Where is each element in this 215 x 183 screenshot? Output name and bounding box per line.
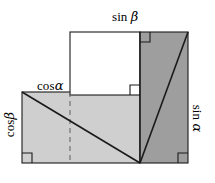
label-cos-beta-text: cos [2, 120, 17, 138]
label-cos-alpha: cosα [37, 79, 64, 92]
geometry-canvas [0, 0, 215, 183]
label-sin-alpha-text: sin [190, 105, 205, 124]
label-sin-alpha-symbol: α [190, 123, 205, 132]
label-sin-beta-symbol: β [131, 9, 139, 24]
label-cos-alpha-symbol: α [55, 78, 64, 93]
label-sin-alpha: sin α [191, 97, 204, 141]
label-sin-beta: sin β [112, 10, 138, 23]
geometry-figure: sin β cosα cosβ sin α [0, 0, 215, 183]
label-sin-beta-text: sin [112, 9, 131, 24]
label-cos-alpha-text: cos [37, 78, 55, 93]
label-cos-beta: cosβ [3, 103, 16, 147]
label-cos-beta-symbol: β [2, 112, 17, 120]
